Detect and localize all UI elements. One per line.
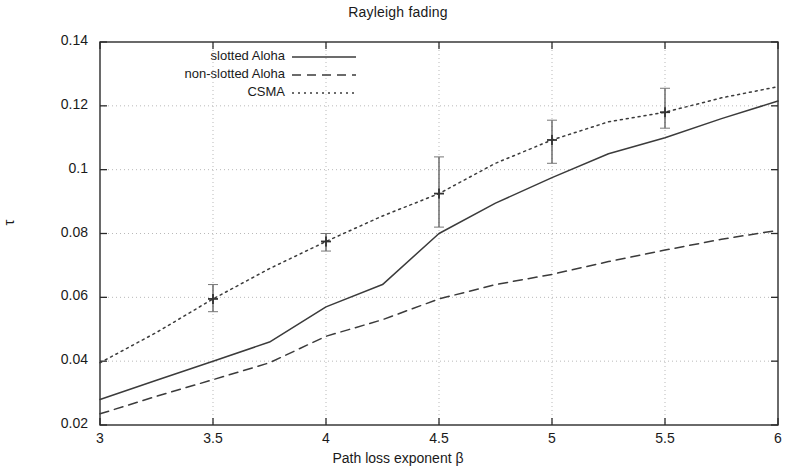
chart-canvas: Rayleigh fading τ Path loss exponent β 0… xyxy=(0,0,796,476)
plot-area xyxy=(0,0,796,476)
